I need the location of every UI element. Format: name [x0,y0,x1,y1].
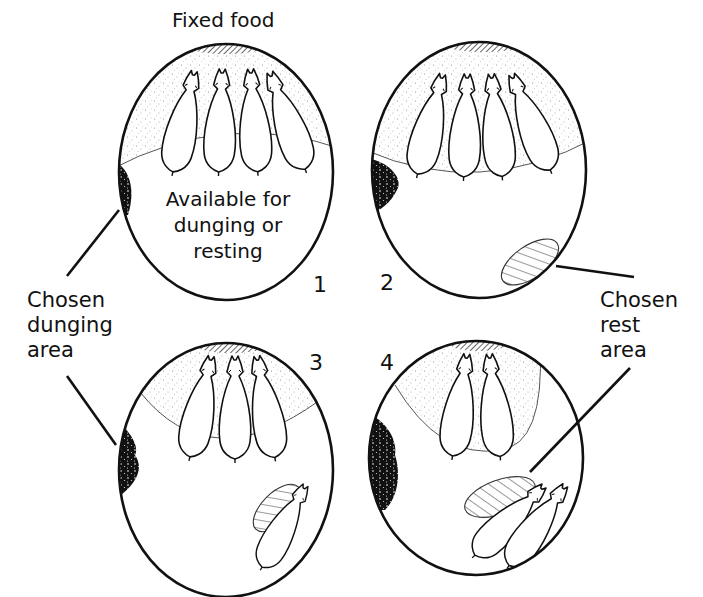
label-line: area [27,338,113,363]
label-line: Chosen [27,288,113,313]
chosen-dunging-area-label: Chosen dunging area [27,288,113,363]
label-line: dunging [27,313,113,338]
label-line: resting [148,238,308,264]
panel-number-1: 1 [313,272,327,297]
title-fixed-food: Fixed food [172,8,274,33]
label-line: area [600,338,678,363]
panel-2 [365,30,595,298]
panel-number-3: 3 [309,350,323,375]
panel-4 [369,335,583,577]
label-line: Available for [148,186,308,212]
panel-number-2: 2 [380,270,394,295]
label-line: Chosen [600,288,678,313]
chosen-rest-area-label: Chosen rest area [600,288,678,363]
available-area-label: Available for dunging or resting [148,186,308,264]
leader-line-dung-3 [67,376,116,445]
label-line: dunging or [148,212,308,238]
panel-3 [115,330,333,597]
panel-number-4: 4 [380,350,394,375]
food-trough-icon [188,38,264,54]
leader-line-dung-1 [67,210,119,276]
label-line: rest [600,313,678,338]
leader-line-rest-2 [556,266,634,277]
